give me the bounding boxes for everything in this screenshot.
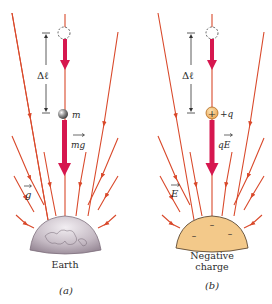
source-label-earth: Earth (51, 259, 78, 270)
displacement-force-arrow-b (207, 39, 217, 70)
displacement-label-a: Δℓ (37, 70, 49, 81)
charge-sign-1: – (210, 220, 215, 230)
field-label-E: E (170, 188, 179, 199)
vector-arrow-g (24, 185, 32, 188)
vector-arrow-qE (224, 134, 233, 137)
mass-sphere (58, 109, 68, 119)
panel-caption-a: (a) (59, 285, 73, 296)
panel-b: Δℓ + +q qE E – – – Negative charge (b) (158, 13, 264, 291)
mass-label: m (72, 110, 81, 120)
earth-dome (30, 216, 101, 254)
figure-gravity-electric-analogy: Δℓ m mg g Earth (a) (0, 0, 272, 304)
source-label-line1: Negative (190, 250, 234, 261)
positive-charge-symbol: + (208, 108, 216, 119)
electric-force-label: qE (218, 140, 231, 150)
panel-caption-b: (b) (205, 280, 219, 291)
initial-position-marker-b (206, 27, 218, 39)
vector-arrow-mg (73, 134, 85, 137)
source-label-line2: charge (195, 261, 229, 272)
field-label-g: g (25, 189, 31, 200)
charge-sign-2: – (192, 231, 197, 241)
panel-a: Δℓ m mg g Earth (a) (12, 13, 118, 296)
initial-position-marker (58, 27, 70, 39)
gravity-force-arrow (58, 120, 71, 176)
displacement-force-arrow-a (60, 39, 70, 70)
vector-arrow-E (171, 184, 180, 187)
charge-sign-3: – (228, 229, 233, 239)
electric-force-arrow (206, 120, 219, 176)
displacement-label-b: Δℓ (182, 70, 194, 81)
gravity-force-label: mg (71, 140, 86, 150)
charge-label: +q (220, 109, 234, 119)
